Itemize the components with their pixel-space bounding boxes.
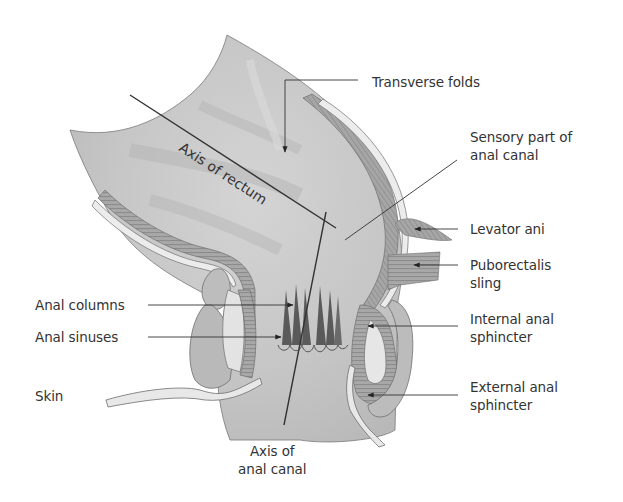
anal-canal-diagram: Axis of rectum	[0, 0, 623, 502]
label-anal-columns: Anal columns	[35, 296, 125, 314]
label-text: Transverse folds	[372, 73, 480, 91]
label-sensory-part: Sensory part of anal canal	[470, 128, 572, 164]
label-text: External anal	[470, 378, 558, 396]
label-transverse-folds: Transverse folds	[372, 73, 480, 91]
label-text: Skin	[35, 387, 63, 405]
label-internal-sphincter: Internal anal sphincter	[470, 310, 554, 346]
label-external-sphincter: External anal sphincter	[470, 378, 558, 414]
label-text: Anal columns	[35, 296, 125, 314]
label-axis-of-anal-canal: Axis of anal canal	[238, 442, 306, 478]
label-text: Anal sinuses	[35, 328, 118, 346]
label-text: sphincter	[470, 328, 554, 346]
label-text: Sensory part of	[470, 128, 572, 146]
label-text: anal canal	[238, 460, 306, 478]
label-text: Axis of	[238, 442, 306, 460]
label-text: Puborectalis	[470, 256, 551, 274]
label-levator-ani: Levator ani	[470, 220, 545, 238]
label-anal-sinuses: Anal sinuses	[35, 328, 118, 346]
puborectalis-muscle	[388, 252, 440, 290]
label-text: sphincter	[470, 396, 558, 414]
label-text: anal canal	[470, 146, 572, 164]
label-text: Internal anal	[470, 310, 554, 328]
label-text: Levator ani	[470, 220, 545, 238]
label-skin: Skin	[35, 387, 63, 405]
label-puborectalis: Puborectalis sling	[470, 256, 551, 292]
label-text: sling	[470, 274, 551, 292]
